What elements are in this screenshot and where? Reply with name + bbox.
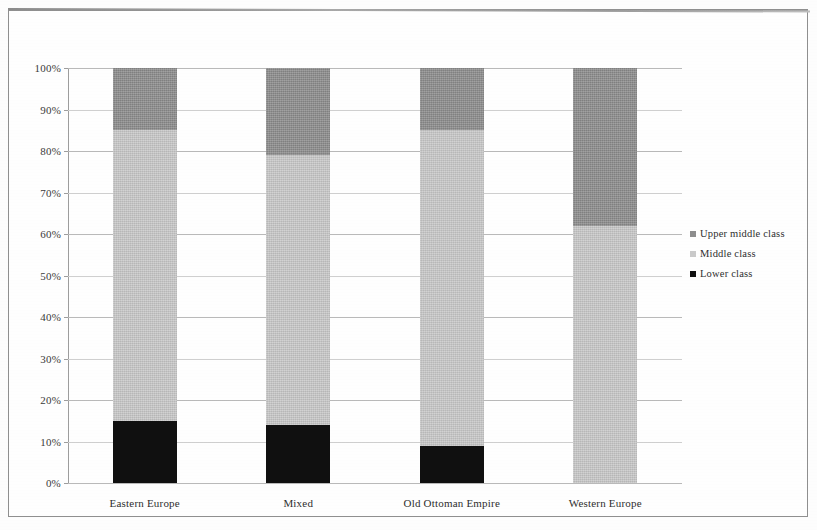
bar-slot: Mixed bbox=[222, 68, 376, 483]
scanned-page: 0%10%20%30%40%50%60%70%80%90%100% Easter… bbox=[0, 0, 817, 530]
bar-segment-middle[interactable] bbox=[573, 226, 637, 483]
y-axis-tick-label: 90% bbox=[40, 104, 61, 116]
bar-segment-middle[interactable] bbox=[266, 155, 330, 425]
bar-segment-lower[interactable] bbox=[420, 446, 484, 483]
bar-segment-upper[interactable] bbox=[573, 68, 637, 226]
legend-item[interactable]: Upper middle class bbox=[690, 228, 810, 239]
legend-label: Upper middle class bbox=[700, 228, 785, 239]
stacked-bar[interactable] bbox=[113, 68, 177, 483]
bar-segment-middle[interactable] bbox=[420, 130, 484, 445]
x-axis-category-label: Old Ottoman Empire bbox=[404, 497, 500, 509]
bar-slot: Eastern Europe bbox=[68, 68, 222, 483]
legend-swatch-icon bbox=[690, 251, 696, 257]
chart-legend: Upper middle classMiddle classLower clas… bbox=[690, 228, 810, 288]
bar-segment-upper[interactable] bbox=[266, 68, 330, 155]
y-axis-tick-label: 40% bbox=[40, 311, 61, 323]
y-axis-tick-label: 60% bbox=[40, 228, 61, 240]
y-axis-tick-label: 20% bbox=[40, 394, 61, 406]
bar-segment-lower[interactable] bbox=[266, 425, 330, 483]
x-axis-category-label: Eastern Europe bbox=[110, 497, 180, 509]
bar-slot: Western Europe bbox=[529, 68, 683, 483]
bar-segment-upper[interactable] bbox=[113, 68, 177, 130]
stacked-bar[interactable] bbox=[573, 68, 637, 483]
x-axis-category-label: Mixed bbox=[283, 497, 313, 509]
stacked-bar[interactable] bbox=[266, 68, 330, 483]
legend-label: Middle class bbox=[700, 248, 756, 259]
stacked-bar[interactable] bbox=[420, 68, 484, 483]
plot-area: 0%10%20%30%40%50%60%70%80%90%100% Easter… bbox=[68, 68, 682, 483]
bar-segment-upper[interactable] bbox=[420, 68, 484, 130]
bar-slot: Old Ottoman Empire bbox=[375, 68, 529, 483]
stacked-bar-chart: 0%10%20%30%40%50%60%70%80%90%100% Easter… bbox=[0, 0, 817, 530]
bar-segment-middle[interactable] bbox=[113, 130, 177, 421]
y-axis-tick-label: 100% bbox=[35, 62, 61, 74]
gridline bbox=[68, 483, 682, 484]
y-axis-tick bbox=[64, 483, 68, 484]
legend-item[interactable]: Lower class bbox=[690, 268, 810, 279]
y-axis-tick-label: 0% bbox=[46, 477, 61, 489]
y-axis-tick-label: 80% bbox=[40, 145, 61, 157]
bar-segment-lower[interactable] bbox=[113, 421, 177, 483]
legend-swatch-icon bbox=[690, 231, 696, 237]
x-axis-category-label: Western Europe bbox=[569, 497, 642, 509]
y-axis-tick-label: 70% bbox=[40, 187, 61, 199]
y-axis-tick-label: 30% bbox=[40, 353, 61, 365]
legend-item[interactable]: Middle class bbox=[690, 248, 810, 259]
legend-label: Lower class bbox=[700, 268, 753, 279]
y-axis-tick-label: 50% bbox=[40, 270, 61, 282]
y-axis-tick-label: 10% bbox=[40, 436, 61, 448]
legend-swatch-icon bbox=[690, 271, 696, 277]
